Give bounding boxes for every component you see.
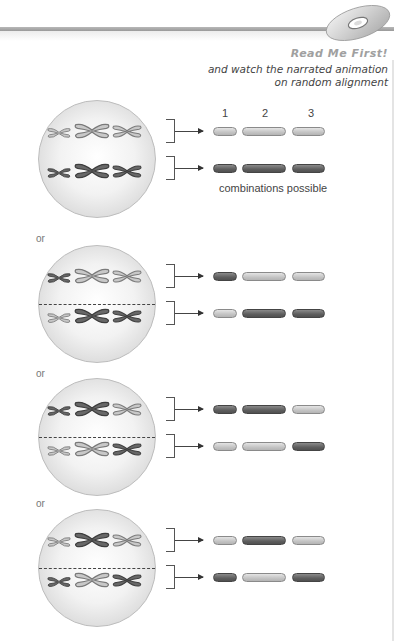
arrow-icon xyxy=(175,446,203,447)
arrow-icon xyxy=(175,131,203,132)
chromosome-bar-light xyxy=(213,536,237,545)
chromosome-bar-dark xyxy=(242,536,286,545)
chromosome-bar-dark xyxy=(242,164,286,173)
or-label: or xyxy=(36,233,45,244)
arrow-icon xyxy=(175,313,203,314)
chromosome-bar-light xyxy=(242,272,286,281)
chromosome-bar-dark xyxy=(242,405,286,414)
chromosome-dark xyxy=(74,162,110,184)
callout-line-2: on random alignment xyxy=(208,76,388,89)
chromosome-light xyxy=(112,269,142,288)
read-me-first-title: Read Me First! xyxy=(291,47,388,60)
chromosome-bar-light xyxy=(213,442,237,451)
chromosome-bar-dark xyxy=(213,272,237,281)
chromosome-dark xyxy=(112,309,142,328)
or-label: or xyxy=(36,498,45,509)
bracket xyxy=(166,528,175,552)
cell-2 xyxy=(38,245,156,363)
chromosome-dark xyxy=(47,574,71,592)
chromosome-light xyxy=(47,443,71,461)
chromosome-bar-light xyxy=(213,309,237,318)
chromosome-bar-dark xyxy=(213,573,237,582)
metaphase-plate xyxy=(39,437,155,438)
bracket xyxy=(166,397,175,421)
column-label-3: 3 xyxy=(308,107,314,119)
cell-4 xyxy=(38,509,156,627)
bracket xyxy=(166,434,175,458)
combinations-caption: combinations possible xyxy=(219,182,327,194)
bracket xyxy=(166,119,175,143)
chromosome-light xyxy=(47,310,71,328)
chromosome-bar-light xyxy=(292,127,325,136)
chromosome-light xyxy=(47,534,71,552)
metaphase-plate xyxy=(39,304,155,305)
cd-disc-icon xyxy=(320,3,392,41)
chromosome-bar-dark xyxy=(292,309,325,318)
bracket xyxy=(166,264,175,288)
chromosome-dark xyxy=(112,164,142,183)
chromosome-dark xyxy=(47,403,71,421)
chromosome-dark xyxy=(112,573,142,592)
arrow-icon xyxy=(175,540,203,541)
arrow-icon xyxy=(175,409,203,410)
or-label: or xyxy=(36,368,45,379)
chromosome-bar-light xyxy=(242,573,286,582)
bracket xyxy=(166,565,175,589)
chromosome-bar-dark xyxy=(292,442,325,451)
chromosome-dark xyxy=(47,270,71,288)
chromosome-bar-light xyxy=(213,127,237,136)
chromosome-dark xyxy=(47,165,71,183)
chromosome-bar-dark xyxy=(292,573,325,582)
callout-text: and watch the narrated animation on rand… xyxy=(208,63,388,89)
chromosome-light xyxy=(47,125,71,143)
chromosome-light xyxy=(74,267,110,289)
chromosome-dark xyxy=(74,400,110,422)
callout-line-1: and watch the narrated animation xyxy=(208,63,388,76)
chromosome-light xyxy=(74,571,110,593)
column-label-2: 2 xyxy=(262,107,268,119)
chromosome-bar-light xyxy=(292,536,325,545)
chromosome-dark xyxy=(74,531,110,553)
chromosome-light xyxy=(74,122,110,144)
bracket xyxy=(166,156,175,180)
chromosome-bar-light xyxy=(292,272,325,281)
chromosome-bar-dark xyxy=(213,405,237,414)
chromosome-bar-light xyxy=(242,442,286,451)
chromosome-bar-dark xyxy=(213,164,237,173)
chromosome-bar-light xyxy=(292,405,325,414)
chromosome-bar-dark xyxy=(292,164,325,173)
cell-1 xyxy=(38,100,156,218)
chromosome-dark xyxy=(112,442,142,461)
chromosome-light xyxy=(74,440,110,462)
chromosome-light xyxy=(112,533,142,552)
bracket xyxy=(166,301,175,325)
header-rule-shadow xyxy=(0,31,330,41)
chromosome-light xyxy=(112,124,142,143)
cell-3 xyxy=(38,378,156,496)
arrow-icon xyxy=(175,276,203,277)
arrow-icon xyxy=(175,168,203,169)
chromosome-bar-dark xyxy=(242,309,286,318)
arrow-icon xyxy=(175,577,203,578)
metaphase-plate xyxy=(39,568,155,569)
column-label-1: 1 xyxy=(222,107,228,119)
chromosome-dark xyxy=(74,307,110,329)
chromosome-bar-light xyxy=(242,127,286,136)
chromosome-light xyxy=(112,402,142,421)
